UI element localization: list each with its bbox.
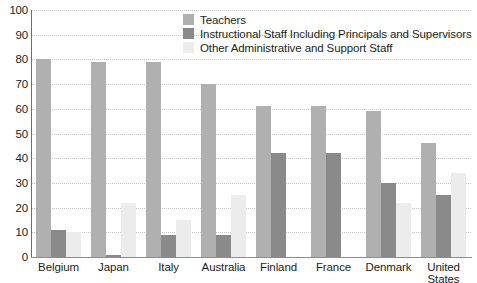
- y-tick-label-10: 10: [0, 226, 28, 238]
- x-label-belgium: Belgium: [31, 259, 86, 283]
- bar: [256, 106, 271, 257]
- x-label-finland: Finland: [251, 259, 306, 283]
- bar: [146, 62, 161, 257]
- bar: [51, 230, 66, 257]
- bar: [421, 143, 436, 257]
- legend-item: Other Administrative and Support Staff: [183, 41, 472, 54]
- x-label-italy: Italy: [141, 259, 196, 283]
- y-tick-label-80: 80: [0, 53, 28, 65]
- bar-group-japan: [86, 10, 141, 257]
- y-tick-label-40: 40: [0, 152, 28, 164]
- bar: [176, 220, 191, 257]
- bar: [271, 153, 286, 257]
- x-label-australia: Australia: [196, 259, 251, 283]
- legend-label: Other Administrative and Support Staff: [200, 42, 392, 54]
- y-axis-tick-labels: 0102030405060708090100: [0, 0, 28, 283]
- y-axis-line: [31, 10, 32, 258]
- x-label-france: France: [306, 259, 361, 283]
- bar: [381, 183, 396, 257]
- y-tick-label-60: 60: [0, 103, 28, 115]
- y-tick-label-70: 70: [0, 78, 28, 90]
- bar: [451, 173, 466, 257]
- legend: TeachersInstructional Staff Including Pr…: [183, 13, 472, 54]
- x-axis-line: [31, 257, 472, 258]
- x-label-united-states: UnitedStates: [416, 259, 471, 283]
- x-label-denmark: Denmark: [361, 259, 416, 283]
- bar: [311, 106, 326, 257]
- bar: [121, 203, 136, 257]
- bar: [366, 111, 381, 257]
- y-tick-label-90: 90: [0, 29, 28, 41]
- x-label-japan: Japan: [86, 259, 141, 283]
- legend-swatch-icon: [183, 28, 194, 39]
- bar: [396, 203, 411, 257]
- y-tick-label-30: 30: [0, 177, 28, 189]
- bar: [436, 195, 451, 257]
- y-tick-label-100: 100: [0, 4, 28, 16]
- legend-item: Instructional Staff Including Principals…: [183, 27, 472, 40]
- legend-item: Teachers: [183, 13, 472, 26]
- legend-swatch-icon: [183, 42, 194, 53]
- bar: [326, 153, 341, 257]
- bar: [216, 235, 231, 257]
- bar: [66, 232, 81, 257]
- y-tick-label-20: 20: [0, 202, 28, 214]
- x-axis-category-labels: BelgiumJapanItalyAustraliaFinlandFranceD…: [31, 259, 471, 283]
- bar: [36, 59, 51, 257]
- bar-group-belgium: [31, 10, 86, 257]
- bar: [91, 62, 106, 257]
- legend-label: Instructional Staff Including Principals…: [200, 28, 472, 40]
- bar: [161, 235, 176, 257]
- legend-swatch-icon: [183, 14, 194, 25]
- legend-label: Teachers: [200, 14, 246, 26]
- y-tick-label-50: 50: [0, 128, 28, 140]
- bar-chart: 0102030405060708090100 BelgiumJapanItaly…: [0, 0, 477, 283]
- bar: [231, 195, 246, 257]
- bar: [201, 84, 216, 257]
- y-tick-label-0: 0: [0, 251, 28, 263]
